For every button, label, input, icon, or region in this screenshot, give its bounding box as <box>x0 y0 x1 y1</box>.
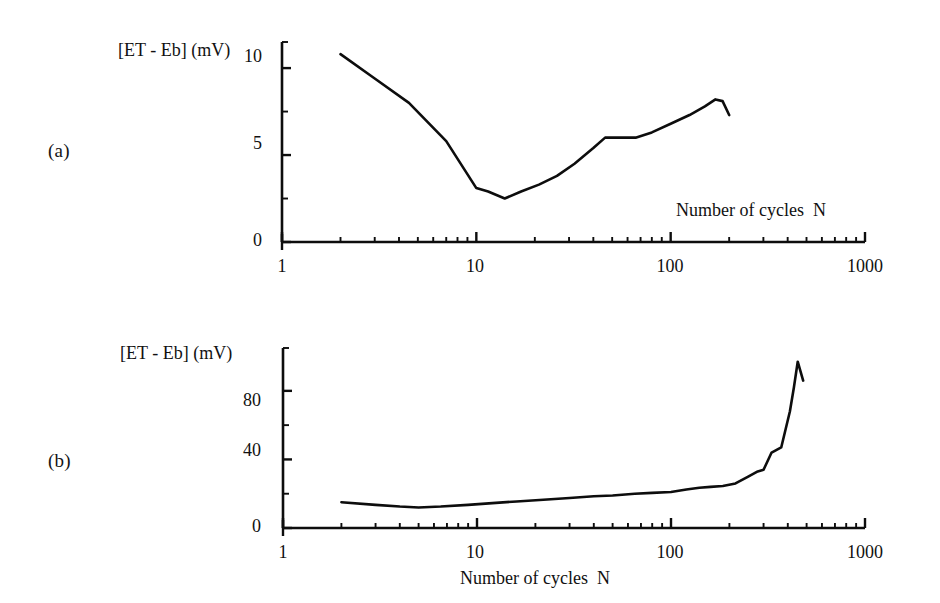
data-curve-b <box>341 362 803 508</box>
axis-ticks-b <box>283 348 865 536</box>
axis-lines-a <box>282 42 865 242</box>
figure-canvas: (a) [ET - Eb] (mV) Number of cycles N 10… <box>0 0 940 603</box>
plot-area-a <box>0 0 940 300</box>
plot-area-b <box>0 300 940 603</box>
axis-lines-b <box>283 348 865 528</box>
data-curve-a <box>341 54 730 198</box>
